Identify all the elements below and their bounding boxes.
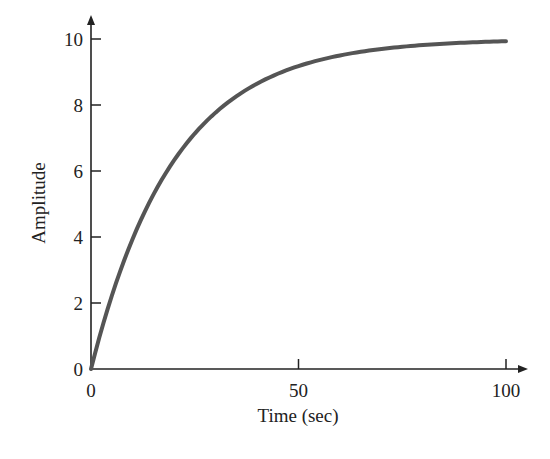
- y-tick-label: 8: [74, 95, 84, 116]
- x-tick-label: 50: [289, 380, 308, 401]
- x-tick-label: 0: [86, 380, 96, 401]
- x-axis-arrow-icon: [518, 365, 528, 373]
- y-tick-label: 0: [74, 359, 84, 380]
- step-response-chart: 0246810 050100 Time (sec) Amplitude: [0, 0, 550, 459]
- y-tick-label: 4: [74, 227, 84, 248]
- x-axis-label: Time (sec): [257, 405, 338, 427]
- x-tick-label: 100: [492, 380, 521, 401]
- y-tick-label: 2: [74, 293, 84, 314]
- y-axis-arrow-icon: [87, 15, 95, 25]
- y-axis-label: Amplitude: [28, 162, 49, 243]
- step-response-curve: [91, 41, 506, 369]
- y-tick-label: 6: [74, 161, 84, 182]
- y-ticks: 0246810: [64, 29, 101, 380]
- x-ticks: 050100: [86, 359, 520, 401]
- y-tick-label: 10: [64, 29, 83, 50]
